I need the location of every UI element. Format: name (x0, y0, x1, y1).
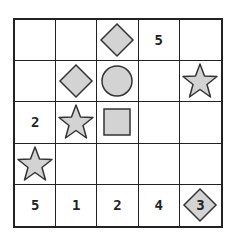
cell-r4-c3[interactable] (97, 144, 138, 185)
cell-r3-c5[interactable] (180, 102, 221, 143)
cell-number: 5 (31, 197, 39, 213)
cell-r2-c3[interactable] (97, 61, 138, 102)
cell-r4-c4[interactable] (139, 144, 180, 185)
cell-r3-c2[interactable] (56, 102, 97, 143)
cell-number: 4 (154, 197, 162, 213)
cell-r1-c4[interactable]: 5 (139, 20, 180, 61)
cell-r4-c5[interactable] (180, 144, 221, 185)
cell-r1-c1[interactable] (15, 20, 56, 61)
cell-r3-c3[interactable] (97, 102, 138, 143)
cell-r2-c4[interactable] (139, 61, 180, 102)
circle-icon (97, 61, 137, 101)
cell-r5-c2[interactable]: 1 (56, 185, 97, 226)
puzzle-grid: 5251243 (13, 18, 223, 228)
cell-r5-c1[interactable]: 5 (15, 185, 56, 226)
cell-r5-c4[interactable]: 4 (139, 185, 180, 226)
cell-number: 3 (196, 197, 204, 213)
cell-number: 2 (31, 114, 39, 130)
cell-r3-c4[interactable] (139, 102, 180, 143)
diamond-icon (56, 61, 96, 101)
cell-r1-c3[interactable] (97, 20, 138, 61)
diamond-icon (97, 20, 137, 60)
cell-number: 1 (72, 197, 80, 213)
star-icon (15, 144, 55, 184)
cell-r5-c5[interactable]: 3 (180, 185, 221, 226)
star-icon (56, 102, 96, 142)
cell-r3-c1[interactable]: 2 (15, 102, 56, 143)
cell-r4-c1[interactable] (15, 144, 56, 185)
cell-number: 5 (154, 32, 162, 48)
square-icon (97, 102, 137, 142)
cell-number: 2 (113, 197, 121, 213)
cell-r2-c2[interactable] (56, 61, 97, 102)
cell-r5-c3[interactable]: 2 (97, 185, 138, 226)
cell-r1-c2[interactable] (56, 20, 97, 61)
cell-r1-c5[interactable] (180, 20, 221, 61)
cell-r2-c1[interactable] (15, 61, 56, 102)
star-icon (180, 61, 221, 101)
cell-r2-c5[interactable] (180, 61, 221, 102)
cell-r4-c2[interactable] (56, 144, 97, 185)
